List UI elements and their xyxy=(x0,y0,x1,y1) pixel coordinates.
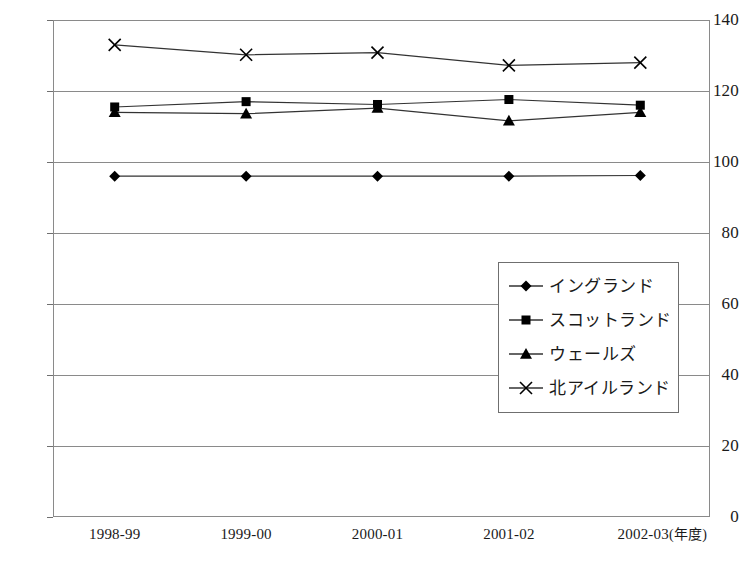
x-tick-label-2002-03: 2002-03(年度) xyxy=(618,527,708,542)
legend-item-2[interactable]: スコットランド xyxy=(507,305,672,335)
y-tick-mark-60 xyxy=(47,304,53,305)
y-tick-mark-40 xyxy=(47,375,53,376)
legend-label: 北アイルランド xyxy=(549,380,671,397)
y-tick-label-120: 120 xyxy=(695,82,739,99)
y-tick-mark-0 xyxy=(47,517,53,518)
y-tick-label-140: 140 xyxy=(695,11,739,28)
gridline-100 xyxy=(54,162,709,163)
y-tick-mark-120 xyxy=(47,91,53,92)
gridline-80 xyxy=(54,233,709,234)
legend-marker-cross-icon xyxy=(507,378,545,398)
y-tick-mark-100 xyxy=(47,162,53,163)
legend-label: ウェールズ xyxy=(549,346,637,363)
legend-marker-square-icon xyxy=(507,310,545,330)
legend-label: スコットランド xyxy=(549,312,672,329)
legend-item-3[interactable]: ウェールズ xyxy=(507,339,637,369)
y-tick-label-60: 60 xyxy=(695,295,739,312)
x-axis-unit-label: (年度) xyxy=(669,527,707,542)
x-tick-label-2000-01: 2000-01 xyxy=(352,527,403,542)
y-tick-label-100: 100 xyxy=(695,153,739,170)
gridline-120 xyxy=(54,91,709,92)
x-tick-label-2001-02: 2001-02 xyxy=(483,527,534,542)
x-tick-label-1998-99: 1998-99 xyxy=(89,527,140,542)
y-tick-mark-20 xyxy=(47,446,53,447)
legend-marker-triangle-icon xyxy=(507,344,545,364)
legend-item-1[interactable]: イングランド xyxy=(507,271,654,301)
y-tick-mark-140 xyxy=(47,20,53,21)
legend-item-4[interactable]: 北アイルランド xyxy=(507,373,671,403)
y-tick-mark-80 xyxy=(47,233,53,234)
legend-marker-diamond-icon xyxy=(507,276,545,296)
y-tick-label-40: 40 xyxy=(695,366,739,383)
y-tick-label-0: 0 xyxy=(695,508,739,525)
x-tick-label-1999-00: 1999-00 xyxy=(220,527,271,542)
chart-legend: イングランドスコットランドウェールズ北アイルランド xyxy=(498,262,679,413)
y-tick-label-80: 80 xyxy=(695,224,739,241)
legend-label: イングランド xyxy=(549,278,654,295)
line-chart: 020406080100120140 1998-991999-002000-01… xyxy=(0,0,739,565)
gridline-20 xyxy=(54,446,709,447)
y-tick-label-20: 20 xyxy=(695,437,739,454)
